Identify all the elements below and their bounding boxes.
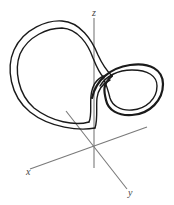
y-axis-label: y — [127, 187, 133, 198]
x-axis — [30, 127, 147, 169]
lorenz-attractor-figure: z x y — [0, 0, 174, 205]
right-lobe-outer-curve — [92, 64, 163, 115]
diagram-canvas: z x y — [0, 0, 174, 205]
z-axis-label: z — [91, 7, 96, 18]
x-axis-label: x — [25, 166, 31, 177]
